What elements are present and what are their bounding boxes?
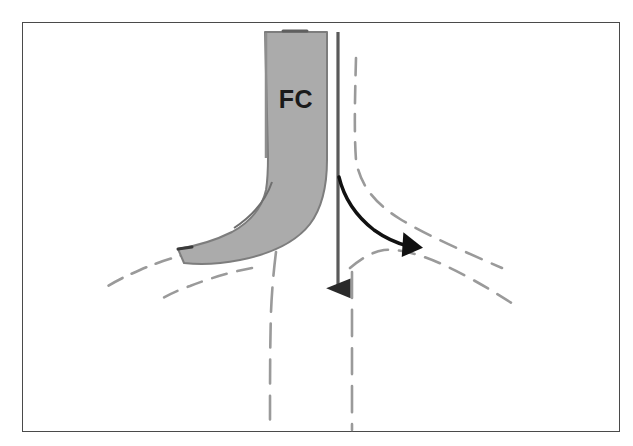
branch-flow-arrow (339, 177, 408, 246)
wall-right-inner-path (355, 58, 502, 268)
fc-label: FC (279, 85, 313, 113)
branch-flow-arrow-shaft (339, 177, 408, 246)
vessel-bifurcation-diagram: FC (0, 0, 633, 446)
fibrous-cap-band (178, 31, 327, 264)
figure-root: FC (0, 0, 633, 446)
band-tip-accent (178, 247, 192, 249)
wall-center-left-path (270, 252, 276, 428)
wall-right-outer-path (350, 250, 516, 306)
fibrous-cap-band-shape (178, 32, 327, 264)
wall-left-inner-path (158, 268, 252, 301)
